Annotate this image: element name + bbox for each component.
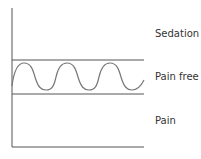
zone-label-sedation: Sedation: [155, 28, 199, 40]
zone-label-pain-free: Pain free: [155, 71, 199, 83]
zone-label-pain: Pain: [155, 115, 176, 127]
oscillating-wave: [12, 63, 144, 90]
